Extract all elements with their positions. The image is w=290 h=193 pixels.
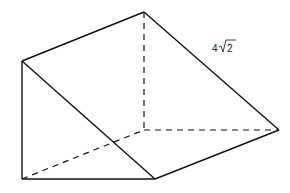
hidden-edge-left-bottom	[22, 130, 144, 179]
edge-top-back-to-right	[144, 12, 279, 130]
edge-length-label: 4 2	[212, 40, 236, 54]
edge-front-hypotenuse	[22, 61, 155, 179]
edge-bottom-right	[155, 130, 279, 179]
label-radicand: 2	[227, 43, 233, 54]
edge-top-left-to-top-back	[22, 12, 144, 61]
prism-diagram: 4 2	[0, 0, 290, 193]
label-coefficient: 4	[212, 43, 218, 54]
